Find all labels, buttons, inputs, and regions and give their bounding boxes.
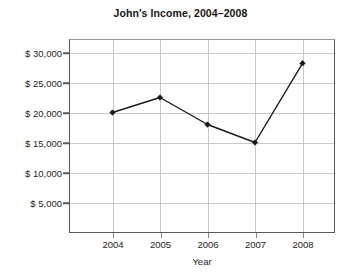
y-axis-tick-label: $ 10,000 [25,168,62,179]
y-axis-tick-label: $ 15,000 [25,138,62,149]
line-chart-figure: John's Income, 2004–2008 $ 5,000$ 10,000… [0,0,361,280]
x-axis-tick-mark [303,233,304,238]
x-axis-tick-mark [161,233,162,238]
x-axis-title: Year [69,256,335,267]
x-axis-tick-mark [256,233,257,238]
x-axis-tick-label: 2005 [150,239,171,250]
data-point-marker [157,95,162,100]
y-axis-tick-labels: $ 5,000$ 10,000$ 15,000$ 20,000$ 25,000$… [0,0,62,280]
data-point-marker [110,110,115,115]
y-axis-tick-label: $ 25,000 [25,78,62,89]
data-point-marker [205,122,210,127]
plot-area [69,39,335,233]
y-axis-tick-label: $ 30,000 [25,48,62,59]
series-line [113,63,303,142]
x-axis-tick-mark [208,233,209,238]
x-axis-tick-mark [113,233,114,238]
income-line-series [70,40,333,231]
y-axis-tick-label: $ 20,000 [25,108,62,119]
x-axis-tick-label: 2004 [102,239,123,250]
y-axis-tick-label: $ 5,000 [30,198,62,209]
x-axis-tick-label: 2008 [292,239,313,250]
data-series-layer [70,40,334,232]
x-axis-tick-label: 2006 [197,239,218,250]
x-axis-tick-label: 2007 [245,239,266,250]
